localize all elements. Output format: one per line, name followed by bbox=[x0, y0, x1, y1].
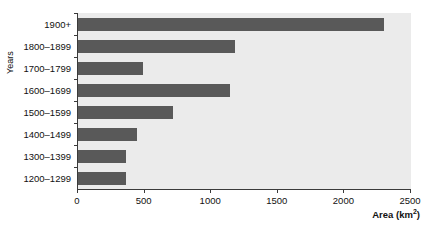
x-axis-title-base: Area (km bbox=[372, 209, 413, 220]
x-axis-tick-label: 1500 bbox=[266, 195, 287, 206]
bar bbox=[78, 172, 126, 185]
x-axis-tick-label: 2500 bbox=[399, 195, 420, 206]
bar bbox=[78, 106, 173, 119]
x-axis-tick-mark bbox=[77, 189, 78, 193]
x-axis-title-tail: ) bbox=[417, 209, 420, 220]
bar bbox=[78, 84, 230, 97]
x-axis-tick-mark bbox=[144, 189, 145, 193]
y-axis-tick-mark bbox=[74, 123, 78, 124]
y-axis-tick-mark bbox=[74, 13, 78, 14]
y-axis-tick-mark bbox=[74, 167, 78, 168]
y-axis-tick-label: 1300–1399 bbox=[23, 151, 71, 162]
bar-chart-figure: Years 1900+1800–18991700–17991600–169915… bbox=[0, 0, 448, 234]
plot-area bbox=[77, 13, 411, 189]
y-axis-tick-label: 1200–1299 bbox=[23, 173, 71, 184]
y-axis-tick-mark bbox=[74, 101, 78, 102]
y-axis-tick-label: 1600–1699 bbox=[23, 85, 71, 96]
bar bbox=[78, 18, 384, 31]
x-axis-tick-mark bbox=[410, 189, 411, 193]
x-axis-ticks: 05001000150020002500 bbox=[77, 189, 411, 215]
bar bbox=[78, 62, 143, 75]
x-axis-tick-label: 0 bbox=[74, 195, 79, 206]
bar bbox=[78, 128, 137, 141]
x-axis-tick-mark bbox=[277, 189, 278, 193]
x-axis-tick-mark bbox=[210, 189, 211, 193]
y-axis-tick-mark bbox=[74, 35, 78, 36]
x-axis-tick-mark bbox=[343, 189, 344, 193]
bar bbox=[78, 150, 126, 163]
y-axis-tick-label: 1500–1599 bbox=[23, 107, 71, 118]
y-axis-tick-label: 1400–1499 bbox=[23, 129, 71, 140]
x-axis-tick-label: 1000 bbox=[200, 195, 221, 206]
y-axis-tick-labels: 1900+1800–18991700–17991600–16991500–159… bbox=[14, 13, 74, 189]
y-axis-tick-mark bbox=[74, 57, 78, 58]
bar bbox=[78, 40, 235, 53]
y-axis-tick-label: 1900+ bbox=[44, 19, 71, 30]
y-axis-tick-mark bbox=[74, 79, 78, 80]
y-axis-tick-label: 1800–1899 bbox=[23, 41, 71, 52]
x-axis-tick-label: 500 bbox=[136, 195, 152, 206]
y-axis-tick-label: 1700–1799 bbox=[23, 63, 71, 74]
x-axis-tick-label: 2000 bbox=[333, 195, 354, 206]
x-axis-title: Area (km2) bbox=[372, 209, 420, 220]
y-axis-tick-mark bbox=[74, 145, 78, 146]
